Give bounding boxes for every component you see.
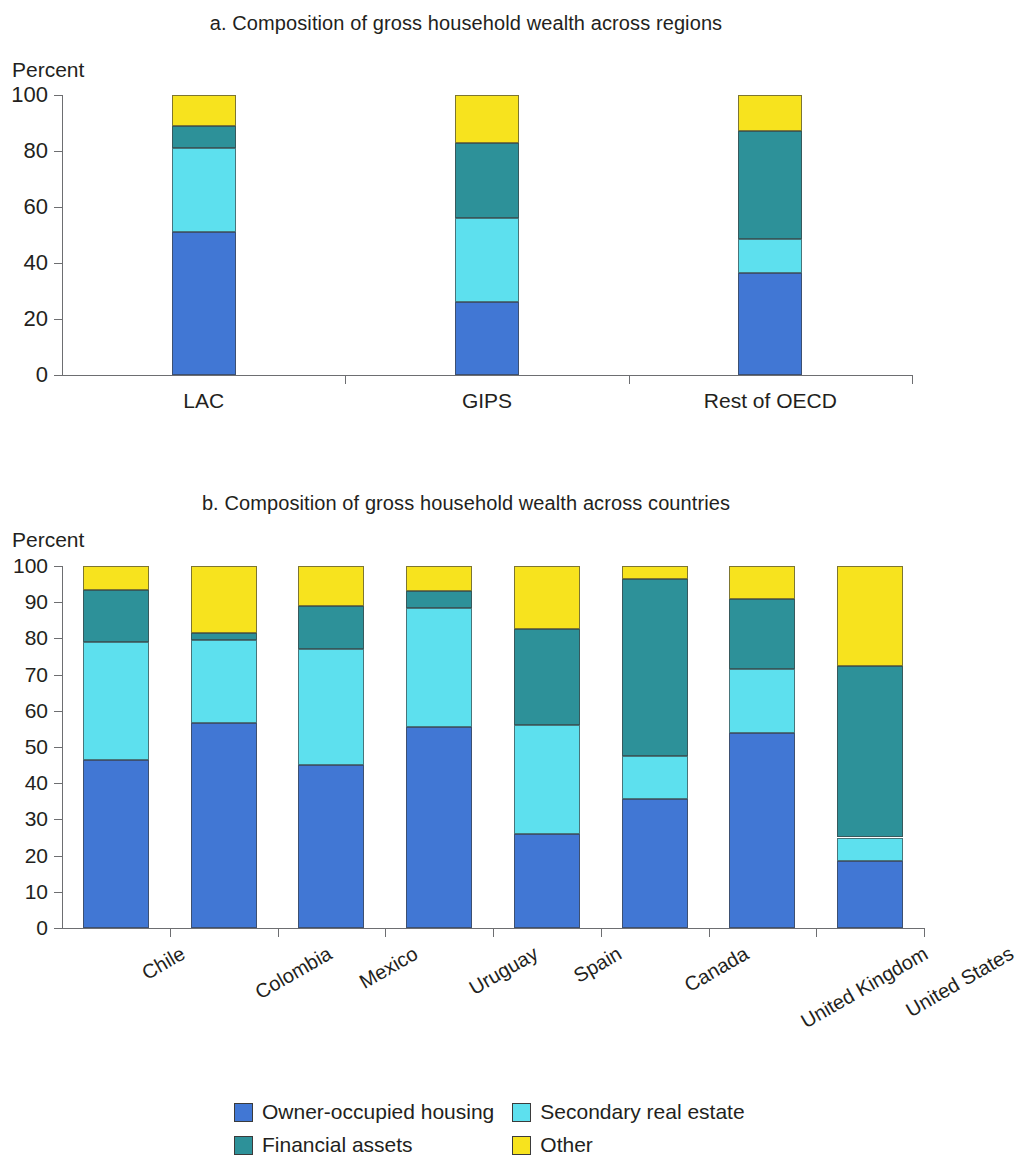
stacked-bar: [729, 566, 795, 928]
y-axis-tick-mark: [54, 856, 62, 857]
x-axis-category-label: Chile: [138, 942, 189, 985]
bar-segment: [406, 591, 472, 607]
y-axis-tick-label: 80: [0, 138, 48, 164]
legend-label: Financial assets: [262, 1133, 413, 1157]
stacked-bar: [738, 95, 802, 375]
y-axis-tick-label: 100: [0, 554, 48, 578]
bar-segment: [191, 633, 257, 640]
bar-segment: [191, 640, 257, 723]
x-axis-category-label: Canada: [680, 942, 752, 997]
y-axis-tick-mark: [54, 783, 62, 784]
bar-segment: [191, 723, 257, 928]
panel-a: a. Composition of gross household wealth…: [0, 0, 932, 470]
x-axis-tick-mark: [170, 928, 171, 937]
y-axis-tick-mark: [54, 711, 62, 712]
y-axis-tick-mark: [54, 263, 62, 264]
bar-segment: [83, 760, 149, 928]
bar-segment: [406, 566, 472, 591]
bar-segment: [837, 838, 903, 862]
x-axis-category-label: Mexico: [356, 942, 422, 994]
x-axis-tick-mark: [278, 928, 279, 937]
x-axis-tick-mark: [601, 928, 602, 937]
bar-segment: [738, 131, 802, 239]
y-axis-tick-mark: [54, 319, 62, 320]
y-axis-tick-label: 20: [0, 844, 48, 868]
x-axis-tick-mark: [385, 928, 386, 937]
x-axis-tick-mark: [912, 375, 913, 384]
y-axis-tick-label: 0: [0, 362, 48, 388]
x-axis-tick-mark: [709, 928, 710, 937]
legend-item: Other: [512, 1133, 744, 1157]
x-axis-category-label: Rest of OECD: [629, 389, 912, 413]
bar-segment: [729, 733, 795, 928]
y-axis-tick-mark: [54, 151, 62, 152]
legend-label: Owner-occupied housing: [262, 1100, 494, 1124]
stacked-bar: [622, 566, 688, 928]
bar-segment: [514, 725, 580, 834]
y-axis-tick-mark: [54, 638, 62, 639]
legend-item: Secondary real estate: [512, 1100, 744, 1124]
bar-segment: [406, 727, 472, 928]
stacked-bar: [191, 566, 257, 928]
bar-segment: [622, 579, 688, 756]
bar-segment: [514, 566, 580, 629]
bar-segment: [298, 649, 364, 765]
y-axis-tick-mark: [54, 375, 62, 376]
legend-swatch-icon: [234, 1103, 253, 1122]
y-axis-tick-label: 90: [0, 590, 48, 614]
stacked-bar: [83, 566, 149, 928]
legend-swatch-icon: [234, 1136, 253, 1155]
bar-segment: [298, 566, 364, 606]
x-axis-category-label: Colombia: [251, 942, 336, 1004]
bar-segment: [514, 834, 580, 928]
y-axis-tick-mark: [54, 95, 62, 96]
bar-segment: [298, 606, 364, 649]
bar-segment: [729, 669, 795, 732]
x-axis-tick-mark: [816, 928, 817, 937]
panel-b-axis-unit-label: Percent: [12, 528, 84, 552]
stacked-bar: [455, 95, 519, 375]
legend-label: Secondary real estate: [540, 1100, 744, 1124]
bar-segment: [83, 642, 149, 760]
bar-segment: [455, 302, 519, 375]
bar-segment: [172, 232, 236, 375]
stacked-bar: [172, 95, 236, 375]
bar-segment: [406, 608, 472, 727]
y-axis-tick-label: 50: [0, 735, 48, 759]
bar-segment: [298, 765, 364, 928]
chart-legend: Owner-occupied housingSecondary real est…: [234, 1100, 745, 1157]
legend-swatch-icon: [512, 1103, 531, 1122]
bar-segment: [729, 599, 795, 670]
bar-segment: [83, 590, 149, 642]
y-axis-tick-mark: [54, 566, 62, 567]
stacked-bar: [514, 566, 580, 928]
bar-segment: [191, 566, 257, 633]
y-axis-line: [62, 566, 63, 928]
bar-segment: [837, 666, 903, 838]
bar-segment: [172, 95, 236, 126]
legend-swatch-icon: [512, 1136, 531, 1155]
bar-segment: [729, 566, 795, 599]
x-axis-tick-mark: [493, 928, 494, 937]
y-axis-tick-mark: [54, 675, 62, 676]
y-axis-tick-mark: [54, 819, 62, 820]
y-axis-tick-label: 30: [0, 807, 48, 831]
bar-segment: [622, 799, 688, 928]
x-axis-category-label: Spain: [570, 942, 626, 987]
y-axis-tick-mark: [54, 207, 62, 208]
stacked-bar: [406, 566, 472, 928]
y-axis-tick-label: 60: [0, 194, 48, 220]
y-axis-tick-label: 70: [0, 663, 48, 687]
x-axis-tick-mark: [345, 375, 346, 384]
x-axis-category-label: Uruguay: [465, 942, 542, 1000]
y-axis-tick-mark: [54, 747, 62, 748]
panel-b-title: b. Composition of gross household wealth…: [0, 492, 932, 515]
y-axis-tick-label: 0: [0, 916, 48, 940]
legend-item: Financial assets: [234, 1133, 494, 1157]
x-axis-category-label: GIPS: [345, 389, 628, 413]
y-axis-tick-label: 80: [0, 626, 48, 650]
y-axis-tick-label: 20: [0, 306, 48, 332]
bar-segment: [455, 218, 519, 302]
x-axis-tick-mark: [629, 375, 630, 384]
stacked-bar: [837, 566, 903, 928]
